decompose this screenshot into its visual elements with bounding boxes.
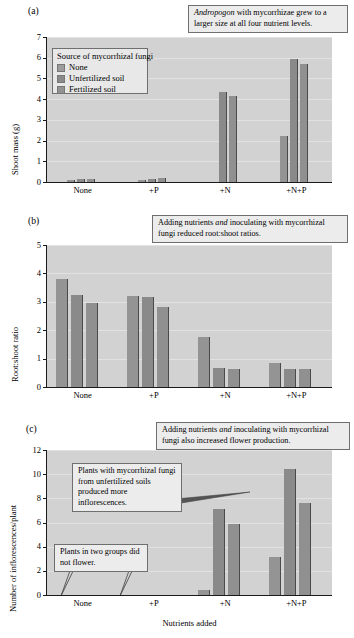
gridline: [47, 141, 332, 142]
y-axis-tick: [43, 273, 46, 274]
legend-label-none: None: [69, 62, 87, 73]
bar: [300, 64, 308, 182]
panel-b-y-axis-title: Root:shoot ratio: [10, 327, 20, 382]
panel-c-callout-mid: Plants with mycorrhizal fungi from unfer…: [72, 463, 182, 512]
legend-title: Source of mycorrhizal fungi: [57, 51, 143, 62]
y-axis-tick: [43, 330, 46, 331]
bar: [228, 369, 240, 387]
y-axis-tick-label: 4: [21, 95, 41, 103]
y-axis-tick-label: 10: [21, 470, 41, 478]
panel-c-callout-low: Plants in two groups did not flower.: [54, 544, 148, 572]
y-axis-tick-label: 5: [21, 74, 41, 82]
y-axis-tick: [43, 99, 46, 100]
y-axis-tick: [43, 161, 46, 162]
bar: [56, 279, 68, 387]
y-axis-tick-label: 5: [21, 241, 41, 249]
y-axis-tick: [43, 245, 46, 246]
y-axis-tick: [43, 595, 46, 596]
panel-a: (a) Shoot mass (g) Andropogon with mycor…: [0, 0, 354, 212]
y-axis-tick: [43, 37, 46, 38]
y-axis-tick-label: 4: [21, 542, 41, 550]
y-axis-tick: [43, 523, 46, 524]
panel-a-label: (a): [28, 6, 39, 16]
x-axis-tick-label: +N: [190, 599, 261, 608]
bar: [71, 295, 83, 387]
x-axis-line: [46, 182, 332, 183]
y-axis-tick: [43, 120, 46, 121]
y-axis-tick-label: 8: [21, 494, 41, 502]
y-axis-tick: [43, 474, 46, 475]
panel-c: (c) Number of inflorescences/plant Addin…: [0, 420, 354, 638]
y-axis-tick-label: 6: [21, 518, 41, 526]
bar: [280, 136, 288, 182]
bar: [142, 297, 154, 387]
y-axis-tick: [43, 547, 46, 548]
legend-label-unfertilized: Unfertilized soil: [69, 73, 124, 84]
panel-b-callout-text: Adding nutrients and inoculating with my…: [158, 218, 325, 238]
bar: [213, 368, 225, 387]
bar: [86, 303, 98, 387]
y-axis-line: [46, 450, 47, 596]
y-axis-tick-label: 4: [21, 269, 41, 277]
panel-c-callout-mid-text: Plants with mycorrhizal fungi from unfer…: [78, 466, 176, 507]
y-axis-tick: [43, 58, 46, 59]
x-axis-tick-label: +N+P: [261, 391, 332, 400]
panel-c-x-axis-title: Nutrients added: [47, 618, 332, 628]
y-axis-tick-label: 3: [21, 297, 41, 305]
x-axis-tick-label: +P: [118, 391, 189, 400]
y-axis-tick: [43, 182, 46, 183]
panel-a-legend: Source of mycorrhizal fungi None Unferti…: [52, 48, 148, 94]
legend-row-fertilized: Fertilized soil: [57, 84, 143, 95]
gridline: [47, 161, 332, 162]
x-axis-tick-label: None: [47, 186, 118, 195]
y-axis-tick: [43, 450, 46, 451]
y-axis-tick: [43, 387, 46, 388]
y-axis-tick: [43, 571, 46, 572]
legend-label-fertilized: Fertilized soil: [69, 84, 116, 95]
y-axis-tick: [43, 498, 46, 499]
gridline: [47, 99, 332, 100]
y-axis-tick-label: 6: [21, 53, 41, 61]
bar: [269, 363, 281, 387]
figure-root: (a) Shoot mass (g) Andropogon with mycor…: [0, 0, 354, 638]
panel-b-callout: Adding nutrients and inoculating with my…: [152, 215, 348, 243]
x-axis-tick-label: +N+P: [261, 599, 332, 608]
x-axis-line: [46, 387, 332, 388]
y-axis-tick-label: 2: [21, 566, 41, 574]
y-axis-tick-label: 2: [21, 136, 41, 144]
bar: [157, 307, 169, 387]
y-axis-line: [46, 37, 47, 183]
legend-row-unfertilized: Unfertilized soil: [57, 73, 143, 84]
y-axis-line: [46, 245, 47, 388]
y-axis-tick-label: 1: [21, 157, 41, 165]
x-axis-tick-label: +N: [190, 391, 261, 400]
y-axis-tick-label: 12: [21, 446, 41, 454]
x-axis-tick-label: None: [47, 391, 118, 400]
panel-b-label: (b): [28, 216, 39, 226]
panel-b-plot-area: [47, 245, 332, 387]
panel-a-y-axis-title: Shoot mass (g): [10, 124, 20, 175]
panel-c-callout-main-text: Adding nutrients and inoculating with my…: [162, 425, 329, 445]
gridline: [47, 245, 332, 246]
bar: [127, 296, 139, 387]
legend-swatch-fertilized: [57, 86, 65, 94]
gridline: [47, 273, 332, 274]
x-axis-tick-label: +N+P: [261, 186, 332, 195]
y-axis-tick-label: 7: [21, 33, 41, 41]
y-axis-tick-label: 0: [21, 383, 41, 391]
panel-c-callout-main: Adding nutrients and inoculating with my…: [156, 422, 350, 450]
legend-row-none: None: [57, 62, 143, 73]
legend-swatch-unfertilized: [57, 75, 65, 83]
y-axis-tick-label: 0: [21, 178, 41, 186]
bar: [198, 337, 210, 387]
gridline: [47, 120, 332, 121]
panel-b: (b) Root:shoot ratio Adding nutrients an…: [0, 212, 354, 420]
y-axis-tick: [43, 359, 46, 360]
x-axis-tick-label: None: [47, 599, 118, 608]
x-axis-tick-label: +P: [118, 186, 189, 195]
y-axis-tick: [43, 78, 46, 79]
x-axis-line: [46, 595, 332, 596]
bar: [299, 369, 311, 387]
y-axis-tick: [43, 141, 46, 142]
y-axis-tick: [43, 302, 46, 303]
